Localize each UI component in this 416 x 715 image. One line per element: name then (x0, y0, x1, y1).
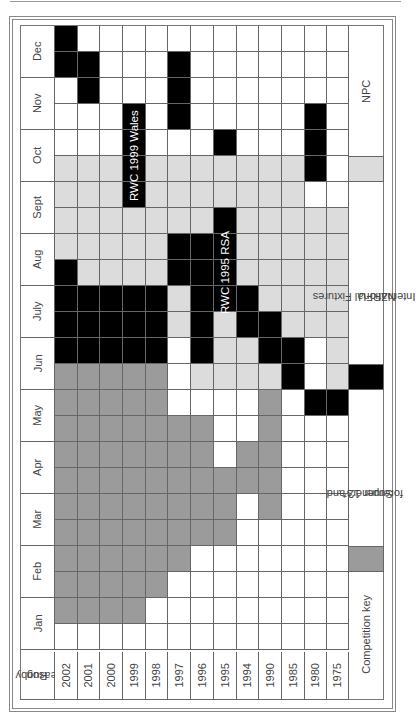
grid-cell (237, 442, 259, 468)
grid-cell (146, 390, 168, 416)
grid-cell (100, 338, 123, 364)
month-text: Dec (31, 42, 44, 62)
grid-cell (100, 494, 123, 520)
grid-cell (259, 286, 282, 312)
grid-cell (282, 598, 305, 624)
grid-cell (237, 26, 259, 52)
grid-cell (78, 182, 100, 208)
grid-cell (168, 52, 191, 78)
grid-cell (55, 234, 78, 260)
grid-cell (327, 572, 349, 598)
grid-cell (78, 104, 100, 130)
key-label-npc: NPC (349, 26, 384, 156)
grid-cell (305, 624, 327, 650)
year-text: 1996 (196, 663, 209, 687)
grid-cell (237, 130, 259, 156)
grid-cell (327, 208, 349, 234)
grid-cell (146, 234, 168, 260)
grid-cell (55, 338, 78, 364)
grid-cell (191, 312, 214, 338)
month-label-apr: Apr (21, 442, 55, 494)
grid-cell (282, 52, 305, 78)
grid-cell (237, 156, 259, 182)
year-label-1975: 1975 (327, 652, 349, 700)
grid-cell (78, 442, 100, 468)
grid-cell (146, 78, 168, 104)
grid-cell (146, 468, 168, 494)
month-text: Sept (31, 196, 44, 219)
grid-cell (305, 364, 327, 390)
grid-cell (100, 546, 123, 572)
grid-cell (259, 468, 282, 494)
season-table: Rugbyseason DecNovOctSeptAugJulyJunMayAp… (20, 25, 384, 700)
grid-cell (100, 286, 123, 312)
grid-cell (191, 468, 214, 494)
grid-cell (168, 78, 191, 104)
grid-cell (282, 156, 305, 182)
grid-cell (100, 598, 123, 624)
grid-cell (237, 572, 259, 598)
grid-cell (259, 338, 282, 364)
month-text: Oct (31, 147, 44, 164)
grid-cell (259, 572, 282, 598)
grid-cell (123, 26, 146, 52)
year-text: 2002 (60, 663, 73, 687)
grid-cell (259, 104, 282, 130)
month-label-may: May (21, 390, 55, 442)
grid-cell (168, 130, 191, 156)
key-swatch-2 (349, 546, 384, 572)
grid-cell (123, 624, 146, 650)
grid-cell (214, 26, 237, 52)
month-label-oct: Oct (21, 130, 55, 182)
grid-cell (78, 598, 100, 624)
grid-cell (327, 546, 349, 572)
grid-cell (168, 468, 191, 494)
grid-cell (305, 598, 327, 624)
super12-label-line2: forerunners* (343, 487, 404, 500)
grid-cell (214, 442, 237, 468)
grid-cell (168, 624, 191, 650)
grid-cell (327, 130, 349, 156)
grid-cell (55, 416, 78, 442)
grid-cell (55, 572, 78, 598)
grid-cell (191, 416, 214, 442)
month-label-july: July (21, 286, 55, 338)
grid-cell (214, 572, 237, 598)
grid-cell (123, 546, 146, 572)
grid-cell (55, 208, 78, 234)
grid-cell (146, 338, 168, 364)
grid-cell (327, 312, 349, 338)
grid-cell (237, 312, 259, 338)
grid-cell (123, 78, 146, 104)
grid-cell (214, 156, 237, 182)
grid-cell (123, 312, 146, 338)
year-label-2000: 2000 (100, 652, 123, 700)
grid-cell (146, 442, 168, 468)
grid-cell (168, 572, 191, 598)
grid-cell (191, 208, 214, 234)
grid-cell (191, 442, 214, 468)
year-label-1999: 1999 (123, 652, 146, 700)
grid-cell (168, 442, 191, 468)
key-swatch-1 (349, 364, 384, 390)
grid-cell (191, 104, 214, 130)
grid-cell (305, 104, 327, 130)
grid-cell (259, 208, 282, 234)
grid-cell (237, 52, 259, 78)
grid-cell (78, 260, 100, 286)
grid-cell (282, 104, 305, 130)
grid-cell (327, 26, 349, 52)
grid-cell (191, 390, 214, 416)
grid-cell (327, 624, 349, 650)
grid-cell (123, 390, 146, 416)
month-text: Nov (31, 94, 44, 114)
grid-cell (123, 468, 146, 494)
grid-cell (78, 624, 100, 650)
grid-cell (305, 338, 327, 364)
grid-cell (78, 286, 100, 312)
grid-cell (123, 286, 146, 312)
grid-cell (282, 416, 305, 442)
grid-cell (191, 494, 214, 520)
grid-cell (78, 364, 100, 390)
grid-cell (78, 416, 100, 442)
